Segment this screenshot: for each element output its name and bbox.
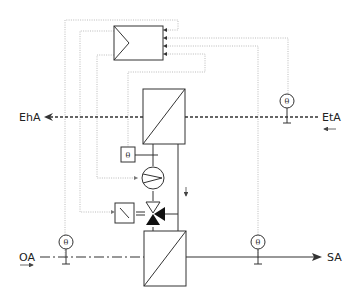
svg-text:θ: θ (126, 151, 131, 160)
label-extract-air: EtA (322, 111, 341, 124)
water-circuit (136, 144, 186, 232)
svg-text:θ: θ (64, 238, 69, 247)
sensor-water: θ (121, 147, 158, 162)
label-exhaust-air: EhA (19, 111, 41, 124)
heat-exchanger-extract (143, 89, 185, 144)
svg-text:θ: θ (285, 97, 290, 106)
label-supply-air: SA (327, 251, 342, 264)
hvac-diagram: θ θ θ θ EhA EtA O (0, 0, 356, 293)
sensor-supply: θ (251, 235, 265, 264)
valve-actuator (111, 203, 134, 223)
sensor-extract: θ (280, 94, 294, 123)
svg-text:θ: θ (256, 238, 261, 247)
controller (114, 26, 167, 60)
heat-exchanger-supply (144, 231, 186, 286)
supply-air-duct (186, 253, 322, 261)
label-outdoor-air: OA (19, 251, 35, 264)
three-way-valve (146, 202, 165, 225)
pump (134, 167, 164, 189)
sensor-outdoor: θ (59, 235, 73, 264)
